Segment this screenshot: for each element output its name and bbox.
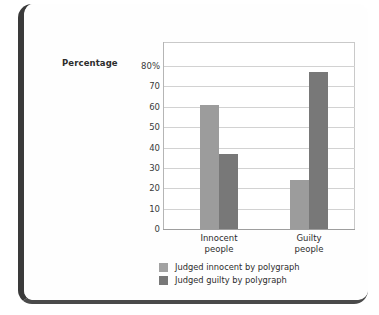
category-label-line1: Guilty [296, 233, 321, 243]
y-axis-tick-label: 50 [114, 122, 160, 132]
bar [219, 154, 238, 229]
y-axis-tick-label: 10 [114, 204, 160, 214]
y-axis-line [163, 42, 164, 230]
y-axis-tick-label: 0 [114, 224, 160, 234]
category-label-line2: people [179, 244, 259, 255]
y-axis-tick-label: 30 [114, 163, 160, 173]
bar [290, 180, 309, 229]
y-axis-tick-label: 40 [114, 143, 160, 153]
bar [200, 105, 219, 229]
x-axis-category-label: Guiltypeople [269, 233, 349, 255]
legend-label: Judged innocent by polygraph [175, 262, 300, 272]
x-axis-line [163, 229, 355, 230]
legend-item: Judged guilty by polygraph [159, 275, 300, 285]
category-label-line1: Innocent [200, 233, 237, 243]
x-axis-category-label: Innocentpeople [179, 233, 259, 255]
y-axis-tick-label: 80% [114, 61, 160, 71]
y-axis-tick-labels: 80%706050403020100 [112, 66, 160, 229]
y-axis-tick-label: 60 [114, 102, 160, 112]
gridline [164, 66, 355, 67]
legend-item: Judged innocent by polygraph [159, 262, 300, 272]
legend-label: Judged guilty by polygraph [175, 275, 287, 285]
y-axis-tick-label: 70 [114, 81, 160, 91]
y-axis-title: Percentage [62, 58, 118, 68]
category-label-line2: people [269, 244, 349, 255]
bar-chart-figure: Percentage 80%706050403020100 Innocentpe… [0, 0, 361, 311]
chart-legend: Judged innocent by polygraphJudged guilt… [159, 262, 300, 288]
plot-area [164, 66, 355, 229]
legend-swatch-icon [159, 276, 168, 285]
y-axis-tick-label: 20 [114, 183, 160, 193]
legend-swatch-icon [159, 263, 168, 272]
bar [309, 72, 328, 229]
